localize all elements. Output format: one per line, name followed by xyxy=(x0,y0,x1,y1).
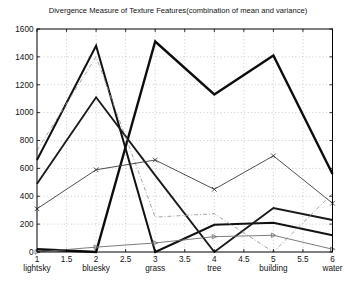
svg-text:4: 4 xyxy=(212,255,217,264)
svg-text:0: 0 xyxy=(29,248,34,257)
svg-text:4.5: 4.5 xyxy=(238,255,250,264)
svg-text:5: 5 xyxy=(271,255,276,264)
svg-text:1600: 1600 xyxy=(15,25,34,34)
svg-text:lightsky: lightsky xyxy=(23,264,51,273)
y-axis-labels: 02004006008001000120014001600 xyxy=(15,25,34,257)
svg-text:200: 200 xyxy=(20,220,34,229)
svg-text:2.5: 2.5 xyxy=(120,255,132,264)
svg-text:grass: grass xyxy=(145,264,165,273)
svg-text:5.5: 5.5 xyxy=(297,255,309,264)
svg-text:1: 1 xyxy=(35,255,40,264)
svg-text:1400: 1400 xyxy=(15,53,34,62)
x-axis-labels: 11.522.533.544.555.56 xyxy=(35,255,336,264)
svg-text:tree: tree xyxy=(207,264,222,273)
svg-text:building: building xyxy=(259,264,288,273)
svg-text:1.5: 1.5 xyxy=(61,255,73,264)
svg-text:800: 800 xyxy=(20,136,34,145)
svg-text:3: 3 xyxy=(153,255,158,264)
svg-text:1000: 1000 xyxy=(15,108,34,117)
x-marker xyxy=(212,187,217,192)
grid-lines xyxy=(37,29,333,252)
figure-window: Divergence Measure of Texture Features(c… xyxy=(0,0,356,288)
svg-text:bluesky: bluesky xyxy=(82,264,111,273)
svg-text:water: water xyxy=(321,264,342,273)
x-marker xyxy=(271,154,276,159)
svg-text:3.5: 3.5 xyxy=(179,255,191,264)
svg-text:400: 400 xyxy=(20,192,34,201)
svg-text:6: 6 xyxy=(330,255,335,264)
svg-text:2: 2 xyxy=(94,255,99,264)
svg-text:600: 600 xyxy=(20,164,34,173)
divergence-chart: 0200400600800100012001400160011.522.533.… xyxy=(0,0,356,288)
x-class-labels: lightskyblueskygrasstreebuildingwater xyxy=(23,264,342,273)
svg-text:1200: 1200 xyxy=(15,81,34,90)
